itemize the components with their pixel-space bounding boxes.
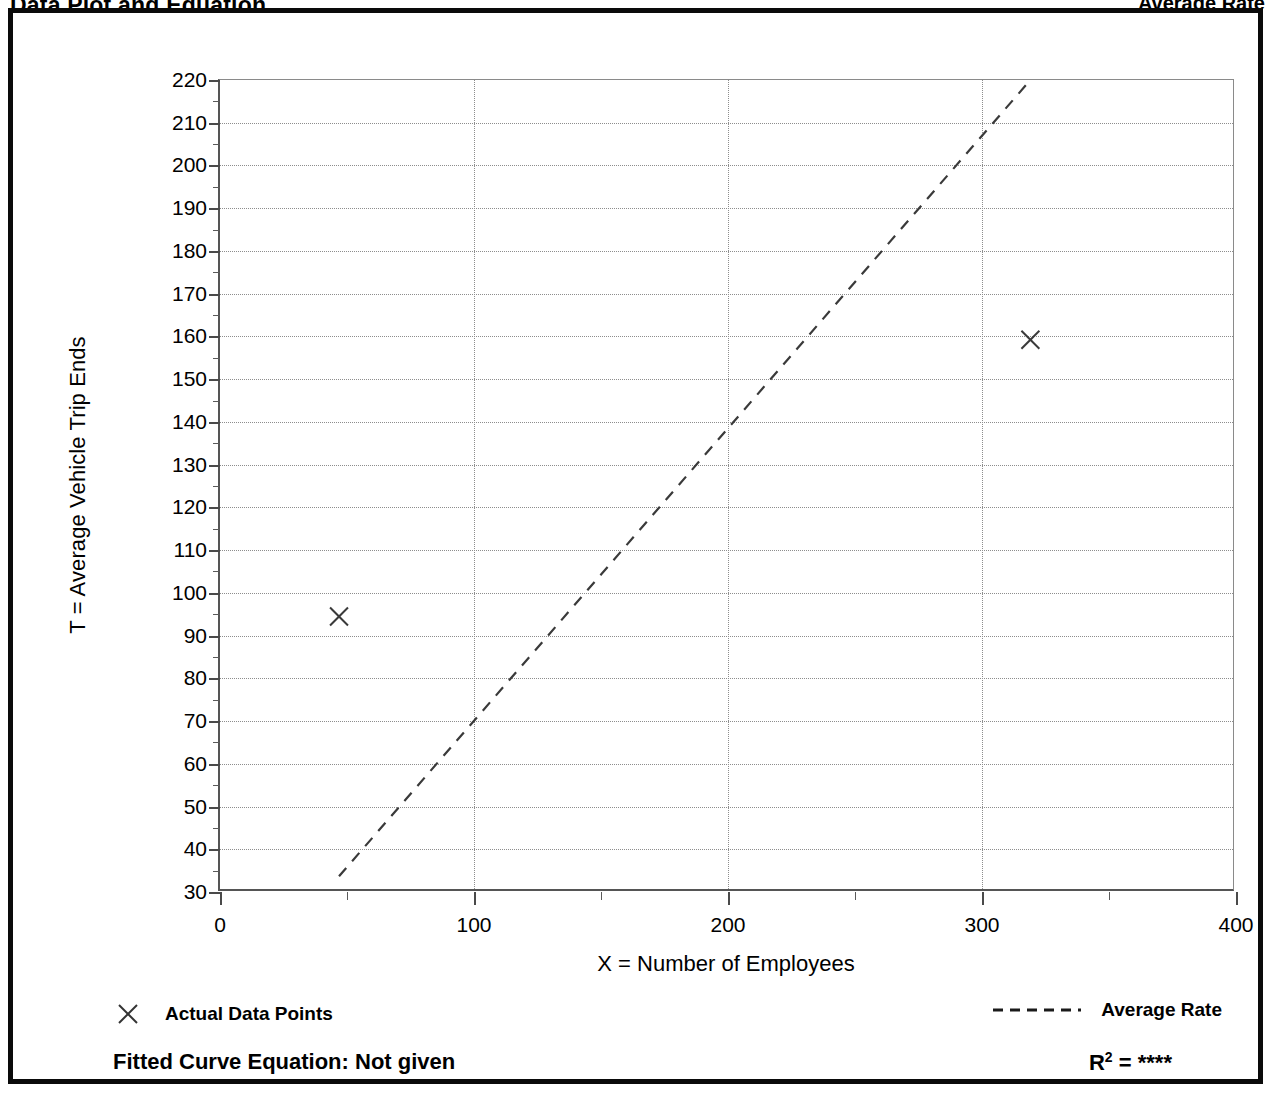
y-tick (209, 892, 220, 894)
y-tick-minor (213, 828, 220, 829)
y-tick (209, 422, 220, 424)
y-tick (209, 807, 220, 809)
y-tick (209, 465, 220, 467)
y-tick-minor (213, 657, 220, 658)
y-tick (209, 80, 220, 82)
y-tick (209, 593, 220, 595)
x-axis-title-text: X = Number of Employees (597, 951, 854, 976)
footer: Fitted Curve Equation: Not given R2 = **… (13, 1049, 1258, 1089)
legend: Actual Data Points Average Rate (13, 999, 1258, 1039)
x-tick-minor (855, 892, 856, 900)
y-tick (209, 849, 220, 851)
y-tick-label: 110 (137, 539, 207, 560)
y-tick (209, 764, 220, 766)
r-squared-value: R2 = **** (1089, 1049, 1172, 1076)
chart-frame: T = Average Vehicle Trip Ends 3040506070… (8, 8, 1263, 1084)
y-tick-label: 130 (137, 454, 207, 475)
y-tick (209, 379, 220, 381)
x-tick-minor (601, 892, 602, 900)
y-tick-label: 80 (137, 667, 207, 688)
y-tick (209, 165, 220, 167)
y-tick-minor (213, 486, 220, 487)
y-tick (209, 123, 220, 125)
x-tick (220, 892, 222, 905)
y-tick-label: 150 (137, 368, 207, 389)
x-tick-label: 200 (688, 914, 768, 935)
y-tick-minor (213, 614, 220, 615)
y-tick (209, 550, 220, 552)
x-axis-title: X = Number of Employees (218, 951, 1234, 977)
y-tick-minor (213, 358, 220, 359)
y-tick-label: 70 (137, 710, 207, 731)
y-tick-minor (213, 700, 220, 701)
x-tick-label: 400 (1196, 914, 1276, 935)
y-tick-minor (213, 230, 220, 231)
y-tick-label: 40 (137, 838, 207, 859)
y-axis-title: T = Average Vehicle Trip Ends (63, 79, 93, 891)
y-tick-label: 190 (137, 197, 207, 218)
y-tick-minor (213, 401, 220, 402)
y-tick-label: 140 (137, 411, 207, 432)
y-tick (209, 208, 220, 210)
r-squared-number: = **** (1119, 1050, 1172, 1075)
x-tick-minor (1109, 892, 1110, 900)
y-tick (209, 678, 220, 680)
y-tick-label: 180 (137, 240, 207, 261)
x-tick (728, 892, 730, 905)
y-tick-label: 90 (137, 625, 207, 646)
y-tick-minor (213, 272, 220, 273)
x-tick-minor (347, 892, 348, 900)
plot-area: 3040506070809010011012013014015016017018… (218, 79, 1234, 891)
y-tick (209, 294, 220, 296)
y-tick-minor (213, 785, 220, 786)
y-tick-minor (213, 315, 220, 316)
y-tick-label: 220 (137, 69, 207, 90)
y-tick-minor (213, 443, 220, 444)
y-tick (209, 507, 220, 509)
y-tick-label: 30 (137, 881, 207, 902)
y-tick (209, 336, 220, 338)
r-squared-label: R (1089, 1050, 1105, 1075)
y-tick-minor (213, 187, 220, 188)
x-tick-label: 300 (942, 914, 1022, 935)
y-tick-label: 200 (137, 154, 207, 175)
y-tick-minor (213, 742, 220, 743)
y-tick-label: 100 (137, 582, 207, 603)
y-tick-label: 120 (137, 496, 207, 517)
legend-label-actual-data-points: Actual Data Points (165, 1003, 333, 1025)
y-axis-title-text: T = Average Vehicle Trip Ends (65, 336, 91, 633)
legend-item-average-rate: Average Rate (991, 999, 1222, 1021)
y-tick-minor (213, 571, 220, 572)
y-tick-minor (213, 101, 220, 102)
y-tick (209, 636, 220, 638)
x-tick (1236, 892, 1238, 905)
y-tick-minor (213, 144, 220, 145)
y-tick-label: 160 (137, 325, 207, 346)
y-tick (209, 721, 220, 723)
y-tick-minor (213, 871, 220, 872)
x-tick (982, 892, 984, 905)
dashed-line-icon (991, 1003, 1083, 1017)
x-tick-label: 0 (180, 914, 260, 935)
legend-label-average-rate: Average Rate (1101, 999, 1222, 1021)
y-tick (209, 251, 220, 253)
x-tick (474, 892, 476, 905)
y-tick-label: 210 (137, 112, 207, 133)
y-tick-label: 50 (137, 796, 207, 817)
y-tick-label: 60 (137, 753, 207, 774)
legend-item-actual-data-points: Actual Data Points (113, 999, 333, 1029)
fitted-curve-equation: Fitted Curve Equation: Not given (113, 1049, 455, 1075)
x-tick-label: 100 (434, 914, 514, 935)
y-tick-label: 170 (137, 283, 207, 304)
r-squared-exponent: 2 (1105, 1049, 1113, 1065)
x-marker-icon (113, 999, 143, 1029)
y-axis-ticks: 3040506070809010011012013014015016017018… (220, 80, 1233, 889)
y-tick-minor (213, 529, 220, 530)
